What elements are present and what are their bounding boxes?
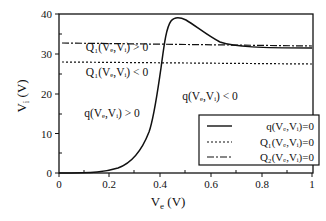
x-tick-0.4: 0.4: [153, 178, 167, 190]
x-tick-0.2: 0.2: [102, 178, 116, 190]
annotation-q1-negative: Q₁(Vₑ,Vᵢ) < 0: [86, 66, 149, 79]
annotation-q-negative: q(Vₑ,Vᵢ) < 0: [182, 90, 238, 103]
legend: q(Vₑ,Vᵢ)=0 Q₁(Vₑ,Vᵢ)=0 Q₂(Vₑ,Vᵢ)=0: [199, 115, 319, 165]
annotation-q1-positive: Q₁(Vₑ,Vᵢ) > 0: [86, 41, 149, 54]
series-q1-line: [62, 62, 312, 64]
x-tick-0.6: 0.6: [204, 178, 218, 190]
x-tick-0: 0: [56, 178, 62, 190]
y-tick-40: 40: [41, 8, 53, 20]
legend-label-q1: Q₁(Vₑ,Vᵢ)=0: [260, 136, 315, 149]
x-axis-labels: 0 0.2 0.4 0.6 0.8 1: [56, 178, 315, 190]
y-axis-title: Vi (V): [14, 79, 31, 112]
annotation-q-positive: q(Vₑ,Vᵢ) > 0: [84, 107, 140, 120]
y-tick-0: 0: [47, 167, 53, 179]
svg-text:Ve (V): Ve (V): [151, 194, 186, 211]
legend-label-q2: Q₂(Vₑ,Vᵢ)=0: [260, 151, 315, 164]
x-tick-0.8: 0.8: [255, 178, 269, 190]
y-tick-30: 30: [41, 48, 53, 60]
y-axis-labels: 0 10 20 30 40: [41, 8, 53, 179]
x-axis-title: Ve (V): [151, 194, 186, 211]
legend-label-q: q(Vₑ,Vᵢ)=0: [266, 120, 314, 133]
y-tick-10: 10: [41, 128, 53, 140]
x-tick-1: 1: [309, 178, 315, 190]
svg-text:Vi (V): Vi (V): [14, 79, 31, 112]
y-tick-20: 20: [41, 88, 53, 100]
chart: 0 10 20 30 40 0 0.2 0.4 0.6 0.8 1 Ve (V)…: [0, 0, 326, 221]
